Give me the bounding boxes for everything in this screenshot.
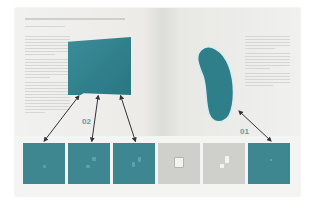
left-page-title — [25, 18, 125, 29]
thumbnail-1 — [23, 143, 65, 184]
thumbnail-4 — [158, 143, 200, 184]
left-page-body-text — [25, 36, 70, 115]
thumbnail-strip — [23, 143, 290, 184]
thumbnail-3 — [113, 143, 155, 184]
thumbnail-2 — [68, 143, 110, 184]
right-page-body-text — [245, 36, 290, 88]
thumbnail-5 — [203, 143, 245, 184]
thumbnail-6 — [248, 143, 290, 184]
teal-bean-figure — [195, 44, 235, 123]
callout-label-02: 02 — [82, 117, 91, 126]
teal-square-figure — [68, 37, 131, 95]
callout-label-01: 01 — [240, 127, 249, 136]
